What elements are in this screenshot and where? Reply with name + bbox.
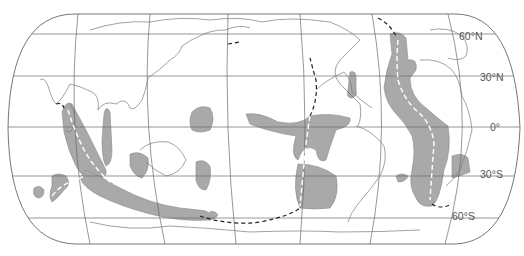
coast-central-america — [316, 72, 372, 108]
trench-south-atlantic — [432, 204, 452, 207]
trench-east-pacific — [310, 58, 316, 116]
meridian-5 — [370, 14, 382, 244]
latitude-label-30n: 30°N — [480, 71, 503, 83]
coast-antarctica — [90, 222, 420, 232]
latitude-label-30s: 30°S — [480, 168, 503, 180]
shaded-region-west-small — [34, 186, 45, 198]
shaded-region-pacific-a — [190, 107, 213, 132]
trench-west — [56, 104, 64, 109]
map-canvas — [0, 0, 524, 256]
latitude-label-60n: 60°N — [459, 30, 482, 42]
shaded-region-australia-west — [130, 153, 148, 178]
world-map: 60°N 30°N 0° 30°S 60°S — [0, 0, 524, 256]
meridian-3 — [227, 14, 236, 244]
shaded-region-finger — [102, 108, 112, 166]
coast-arctic — [90, 18, 262, 30]
shaded-region-south-atlantic-small — [396, 174, 408, 182]
trench-north-pacific-dots — [228, 42, 240, 44]
coast-north-america — [262, 19, 361, 126]
latitude-label-60s: 60°S — [452, 210, 475, 222]
shaded-region-pacific-c — [246, 114, 350, 161]
shaded-region-gulf — [348, 72, 357, 98]
shaded-region-pacific-d — [295, 164, 337, 209]
shaded-region-atlantic — [384, 33, 449, 207]
shaded-regions — [34, 33, 471, 221]
shaded-region-pacific-b — [196, 161, 211, 190]
coast-eurasia — [40, 26, 250, 110]
latitude-label-0: 0° — [490, 121, 500, 133]
